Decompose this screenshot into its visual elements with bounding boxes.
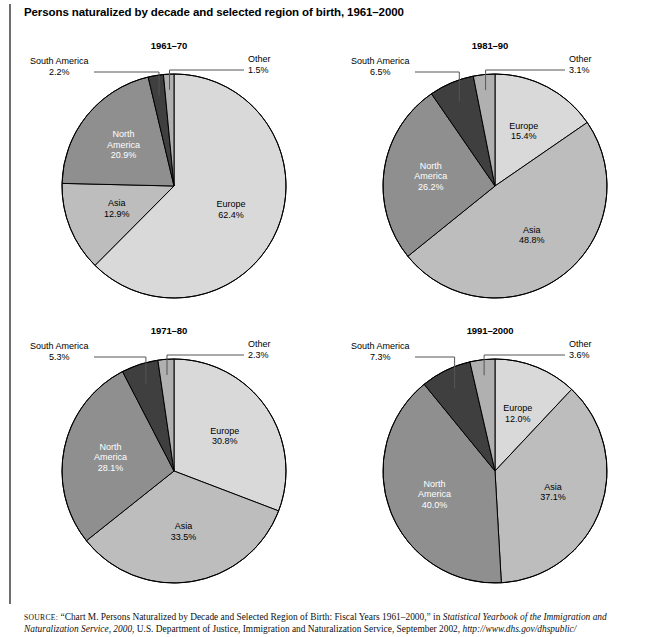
pie-label-north-america: NorthAmerica20.9% <box>107 129 140 161</box>
source-note: SOURCE: “Chart M. Persons Naturalized by… <box>24 612 642 635</box>
pie-svg <box>24 58 314 316</box>
callout-value: 3.6% <box>569 350 592 361</box>
pie-label-line: Asia <box>104 198 130 209</box>
chart-title: 1991–2000 <box>345 325 635 336</box>
pie-label-asia: Asia12.9% <box>104 198 130 219</box>
pie-label-line: North <box>107 129 140 140</box>
callout-south-america: South America5.3% <box>30 341 89 362</box>
pie-label-europe: Europe30.8% <box>210 426 239 447</box>
pie-label-line: 15.4% <box>509 131 538 142</box>
pie-svg <box>345 58 635 316</box>
pie-label-line: Europe <box>216 199 245 210</box>
source-label: SOURCE: <box>24 613 58 622</box>
page-left-rule <box>9 4 11 604</box>
pie-label-line: 12.9% <box>104 209 130 220</box>
callout-other: Other3.6% <box>569 339 592 360</box>
callout-name: South America <box>351 341 410 351</box>
callout-value: 6.5% <box>351 67 410 78</box>
callout-value: 5.3% <box>30 352 89 363</box>
pie-area <box>24 343 314 601</box>
callout-value: 2.3% <box>248 350 271 361</box>
pie-svg <box>345 343 635 601</box>
pie-label-line: 37.1% <box>540 492 566 503</box>
chart-title: 1971–80 <box>24 325 314 336</box>
callout-name: South America <box>30 56 89 66</box>
pie-label-line: 12.0% <box>503 414 532 425</box>
pie-label-europe: Europe15.4% <box>509 121 538 142</box>
pie-label-line: North <box>94 442 127 453</box>
pie-label-line: 28.1% <box>94 463 127 474</box>
pie-label-line: 33.5% <box>171 532 197 543</box>
callout-value: 1.5% <box>248 65 271 76</box>
pie-label-line: North <box>418 479 451 490</box>
pie-label-asia: Asia48.8% <box>519 225 545 246</box>
source-text-2: , U.S. Department of Justice, Immigratio… <box>132 624 462 634</box>
pie-label-north-america: NorthAmerica40.0% <box>418 479 451 511</box>
pie-label-line: Asia <box>171 521 197 532</box>
pie-label-line: America <box>418 489 451 500</box>
callout-name: Other <box>248 339 271 349</box>
callout-other: Other3.1% <box>569 54 592 75</box>
pie-label-line: Europe <box>210 426 239 437</box>
callout-value: 7.3% <box>351 352 410 363</box>
chart-title: 1961–70 <box>24 40 314 51</box>
pie-label-north-america: NorthAmerica28.1% <box>94 442 127 474</box>
callout-name: Other <box>248 54 271 64</box>
pie-label-north-america: NorthAmerica26.2% <box>414 161 447 193</box>
callout-south-america: South America7.3% <box>351 341 410 362</box>
pie-label-line: 40.0% <box>418 500 451 511</box>
callout-name: South America <box>30 341 89 351</box>
callout-value: 2.2% <box>30 67 89 78</box>
chart-title: 1981–90 <box>345 40 635 51</box>
pie-label-line: Asia <box>519 225 545 236</box>
callout-south-america: South America6.5% <box>351 56 410 77</box>
pie-label-line: Europe <box>509 121 538 132</box>
pie-label-line: North <box>414 161 447 172</box>
callout-name: South America <box>351 56 410 66</box>
pie-label-europe: Europe62.4% <box>216 199 245 220</box>
pie-label-line: 48.8% <box>519 235 545 246</box>
callout-name: Other <box>569 54 592 64</box>
pie-label-line: America <box>414 171 447 182</box>
pie-label-line: Asia <box>540 482 566 493</box>
pie-label-line: 26.2% <box>414 182 447 193</box>
source-italic-2: http://www.dhs.gov/dhspublic/ <box>462 624 576 634</box>
pie-label-line: America <box>94 452 127 463</box>
callout-other: Other2.3% <box>248 339 271 360</box>
pie-area <box>345 58 635 316</box>
callout-south-america: South America2.2% <box>30 56 89 77</box>
pie-svg <box>24 343 314 601</box>
callout-name: Other <box>569 339 592 349</box>
pie-label-line: Europe <box>503 403 532 414</box>
pie-label-line: 62.4% <box>216 210 245 221</box>
callout-value: 3.1% <box>569 65 592 76</box>
pie-label-line: 20.9% <box>107 150 140 161</box>
pie-area <box>24 58 314 316</box>
pie-label-line: 30.8% <box>210 436 239 447</box>
pie-label-line: America <box>107 140 140 151</box>
pie-label-asia: Asia33.5% <box>171 521 197 542</box>
pie-area <box>345 343 635 601</box>
figure-title: Persons naturalized by decade and select… <box>24 6 404 18</box>
source-text-1: “Chart M. Persons Naturalized by Decade … <box>58 612 443 622</box>
callout-other: Other1.5% <box>248 54 271 75</box>
pie-label-asia: Asia37.1% <box>540 482 566 503</box>
pie-label-europe: Europe12.0% <box>503 403 532 424</box>
